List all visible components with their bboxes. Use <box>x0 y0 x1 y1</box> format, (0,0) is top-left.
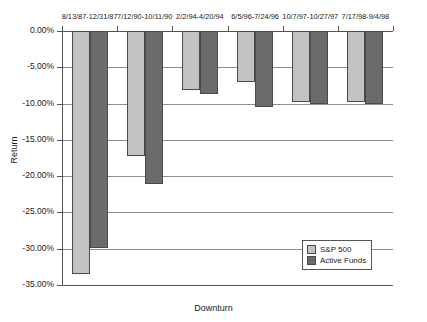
bar-sp500 <box>347 31 365 102</box>
y-axis-label: 0.00% <box>30 26 54 35</box>
legend: S&P 500 Active Funds <box>302 240 372 270</box>
y-axis-label: -5.00% <box>27 62 54 71</box>
y-axis-label: -35.00% <box>22 280 54 289</box>
bar-sp500 <box>127 31 145 156</box>
bar-sp500 <box>292 31 310 102</box>
legend-label-active-funds: Active Funds <box>320 255 366 266</box>
y-axis-label: -10.00% <box>22 99 54 108</box>
y-axis-title: Return <box>9 120 19 180</box>
bar-active-funds <box>200 31 218 94</box>
bar-active-funds <box>145 31 163 184</box>
y-axis-label: -30.00% <box>22 244 54 253</box>
y-axis-label: -20.00% <box>22 171 54 180</box>
bar-active-funds <box>90 31 108 248</box>
bottom-axis-line <box>62 285 393 286</box>
chart-container: Return 0.00%-5.00%-10.00%-15.00%-20.00%-… <box>0 0 427 322</box>
legend-item-sp500: S&P 500 <box>307 244 366 255</box>
legend-swatch-sp500-icon <box>307 245 316 254</box>
category-label: 7/17/98-9/4/98 <box>332 13 399 21</box>
bar-active-funds <box>255 31 273 107</box>
y-axis-label: -25.00% <box>22 207 54 216</box>
bar-active-funds <box>310 31 328 104</box>
legend-label-sp500: S&P 500 <box>320 244 351 255</box>
y-axis-label: -15.00% <box>22 135 54 144</box>
legend-swatch-active-funds-icon <box>307 256 316 265</box>
bar-sp500 <box>237 31 255 82</box>
bar-sp500 <box>182 31 200 90</box>
x-axis-title: Downturn <box>0 303 427 313</box>
legend-item-active-funds: Active Funds <box>307 255 366 266</box>
category-tick <box>393 26 394 31</box>
bar-active-funds <box>365 31 383 104</box>
bar-sp500 <box>72 31 90 274</box>
